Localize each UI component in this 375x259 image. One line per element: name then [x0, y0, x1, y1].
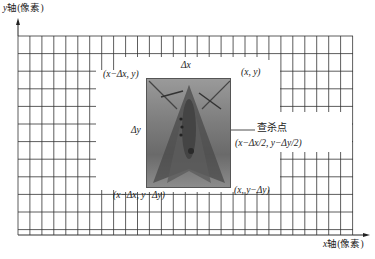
delta-x-label: Δx	[181, 61, 191, 71]
x-axis-label: x轴(像素)	[323, 240, 364, 250]
corner-top-left-label: (x−Δx, y)	[103, 70, 139, 80]
x-axis-text: 轴(像素)	[327, 239, 363, 249]
corner-top-right-label: (x, y)	[241, 68, 261, 78]
kill-point-title: 查杀点	[257, 123, 287, 133]
corner-bottom-left-label: (x−Δx, y−Δy)	[113, 191, 165, 201]
moth-image	[146, 78, 231, 188]
y-axis-arrowhead	[16, 18, 20, 25]
x-axis-arrowhead	[363, 233, 370, 237]
y-axis-label: y轴(像素)	[3, 4, 44, 14]
y-axis-text: 轴(像素)	[7, 3, 43, 13]
delta-y-label: Δy	[131, 126, 141, 136]
moth-illustration	[147, 79, 231, 188]
corner-bottom-right-label: (x, y−Δy)	[234, 186, 270, 196]
kill-point-coord: (x−Δx/2, y−Δy/2)	[235, 139, 302, 149]
cleared-area-left	[96, 70, 122, 190]
